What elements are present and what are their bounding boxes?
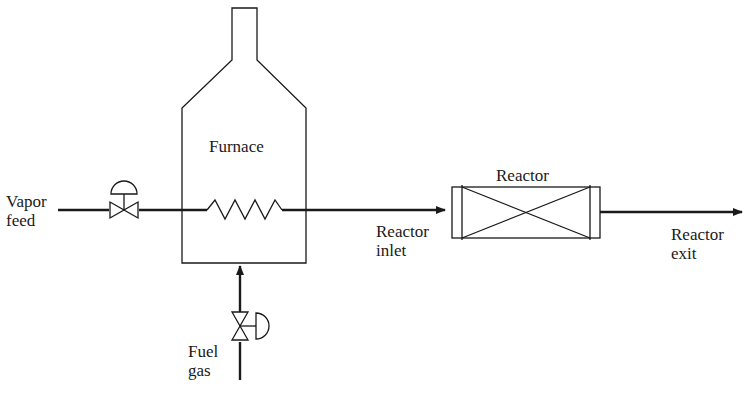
reactor-label: Reactor bbox=[496, 166, 549, 185]
reactor-inlet-label-2: inlet bbox=[376, 241, 406, 260]
reactor-exit-label-2: exit bbox=[671, 244, 697, 263]
process-flow-diagram: Vapor feed Furnace Reactor Reactor inlet… bbox=[0, 0, 745, 393]
fuel-gas-label-1: Fuel bbox=[188, 342, 219, 361]
furnace-label: Furnace bbox=[209, 137, 264, 156]
fuel-control-valve-icon bbox=[232, 312, 269, 340]
vapor-feed-label-2: feed bbox=[6, 211, 36, 230]
heating-coil-icon bbox=[207, 200, 282, 219]
reactor-exit-label-1: Reactor bbox=[671, 225, 724, 244]
feed-control-valve-icon bbox=[110, 181, 138, 218]
fuel-gas-label-2: gas bbox=[188, 361, 211, 380]
furnace-outline bbox=[182, 8, 306, 263]
vapor-feed-label-1: Vapor bbox=[6, 192, 47, 211]
reactor-vessel bbox=[452, 185, 600, 240]
reactor-inlet-label-1: Reactor bbox=[376, 222, 429, 241]
